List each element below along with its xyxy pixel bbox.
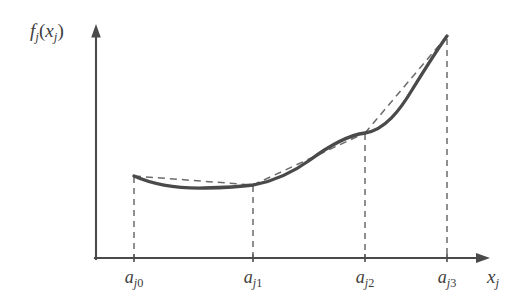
tick-label-a-j0-subscript: j0 [134,276,144,290]
x-axis [95,253,490,263]
x-axis-arrowhead [476,253,490,263]
chord-segment-2 [365,36,447,133]
y-axis-label-f-sub: j [35,29,39,44]
tick-label-a-j3-subscript: j3 [447,276,457,290]
tick-label-a-j2: aj2 [356,268,375,286]
y-axis [91,24,101,259]
tick-label-a-j2-base: a [356,267,365,287]
drop-lines-group [134,39,447,257]
y-axis-label-x: x [45,20,53,41]
tick-label-a-j0-base: a [125,267,134,287]
y-axis-label: fj(xj) [30,21,64,40]
tick-label-a-j1: aj1 [244,268,263,286]
tick-label-a-j0: aj0 [125,268,144,286]
tick-label-a-j0-sub-idx: 0 [137,276,143,290]
tick-label-a-j3: aj3 [438,268,457,286]
tick-label-a-j2-sub-idx: 2 [368,276,374,290]
tick-label-a-j2-subscript: j2 [365,276,375,290]
x-axis-label-sub: j [495,275,499,290]
tick-label-a-j1-base: a [244,267,253,287]
figure-container: fj(xj) xj aj0 aj1 aj2 aj3 [0,0,524,308]
y-axis-label-close-paren: ) [57,20,63,41]
function-curve [134,36,447,188]
tick-label-a-j1-subscript: j1 [253,276,263,290]
tick-label-a-j1-sub-idx: 1 [256,276,262,290]
y-axis-label-x-sub: j [54,29,58,44]
x-axis-label: xj [487,267,499,286]
y-axis-arrowhead [91,24,101,38]
figure-canvas [0,0,524,308]
tick-label-a-j3-base: a [438,267,447,287]
tick-label-a-j3-sub-idx: 3 [450,276,456,290]
